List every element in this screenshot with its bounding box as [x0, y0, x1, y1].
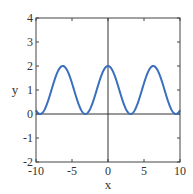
y-axis-label: y — [12, 82, 19, 97]
x-axis-label: x — [105, 177, 112, 192]
y-tick-label: 2 — [27, 59, 33, 73]
y-tick-label: 3 — [27, 35, 33, 49]
y-tick-label: 0 — [27, 107, 33, 121]
y-tick-label: -2 — [23, 155, 33, 169]
chart: -10-50510 -2-101234 x y — [0, 0, 193, 194]
y-tick-label: -1 — [23, 131, 33, 145]
x-tick-label: 5 — [141, 164, 147, 178]
y-tick-label: 4 — [27, 11, 33, 25]
x-tick-label: -5 — [67, 164, 77, 178]
y-tick-label: 1 — [27, 83, 33, 97]
x-tick-label: 0 — [105, 164, 111, 178]
x-tick-label: 10 — [174, 164, 186, 178]
y-ticks: -2-101234 — [23, 11, 180, 169]
x-ticks: -10-50510 — [28, 18, 186, 178]
